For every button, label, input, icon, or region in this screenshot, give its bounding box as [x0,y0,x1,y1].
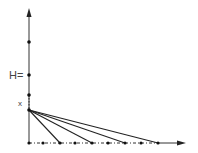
vertical-point [27,93,31,97]
horizontal-point [73,141,76,144]
diagram-canvas [0,0,198,153]
ray-2 [29,110,92,143]
horizontal-point [156,141,159,144]
horizontal-point [90,141,93,144]
h-label: H= [9,70,23,81]
vertical-point [27,40,31,44]
vertical-point [27,73,31,77]
horizontal-point [139,141,142,144]
apex-point [27,108,31,112]
x-label: x [18,100,22,108]
rays [29,110,158,143]
horizontal-axis-arrow-icon [177,141,186,146]
horizontal-point [58,141,61,144]
horizontal-point [106,141,109,144]
vertical-axis-arrow-icon [27,8,32,17]
horizontal-point [41,141,44,144]
horizontal-point [27,141,30,144]
horizontal-point [123,141,126,144]
ray-4 [29,110,158,143]
ray-3 [29,110,125,143]
